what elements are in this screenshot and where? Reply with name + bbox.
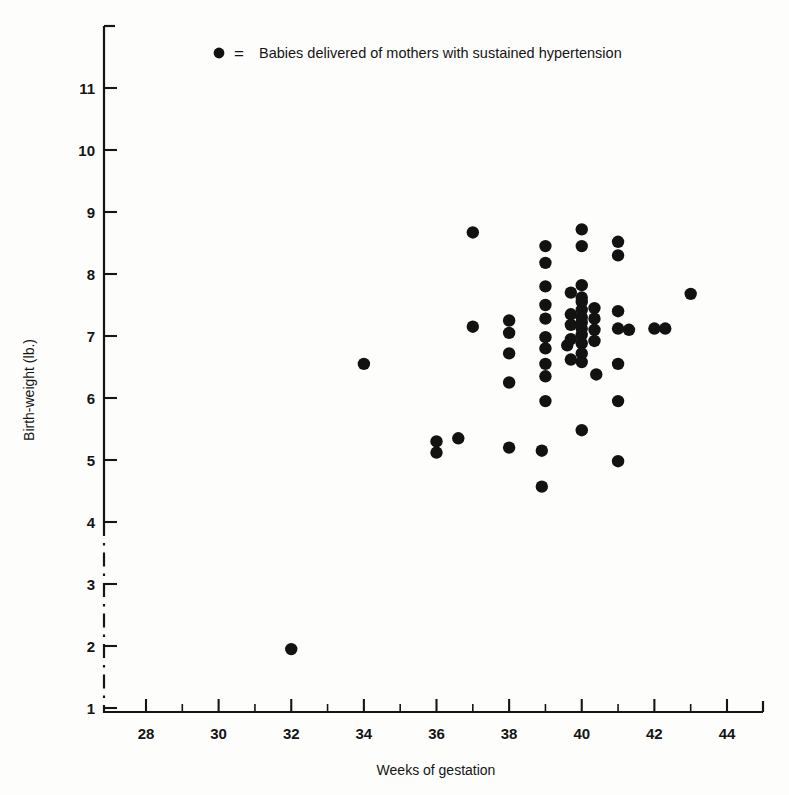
legend-equals-sign: = <box>234 44 244 63</box>
data-point <box>588 324 600 336</box>
x-tick-label-28: 28 <box>138 725 155 742</box>
x-tick-label-40: 40 <box>573 725 590 742</box>
data-point <box>539 240 551 252</box>
x-tick-label-34: 34 <box>356 725 373 742</box>
x-tick-label-44: 44 <box>719 725 736 742</box>
data-point <box>430 446 442 458</box>
data-point <box>612 305 624 317</box>
data-point <box>539 331 551 343</box>
x-tick-label-30: 30 <box>210 725 227 742</box>
data-point <box>503 347 515 359</box>
data-point <box>590 368 602 380</box>
data-point <box>588 312 600 324</box>
data-point <box>684 288 696 300</box>
x-tick-label-38: 38 <box>501 725 518 742</box>
data-point <box>539 280 551 292</box>
legend-marker-icon <box>214 48 225 59</box>
data-point <box>612 455 624 467</box>
data-point <box>612 395 624 407</box>
data-point <box>358 358 370 370</box>
legend-label: Babies delivered of mothers with sustain… <box>259 45 622 61</box>
data-point <box>503 441 515 453</box>
data-point <box>623 324 635 336</box>
data-point <box>588 302 600 314</box>
axes-layer: 1234567891011283032343638404244 <box>78 26 763 742</box>
chart-legend: = Babies delivered of mothers with susta… <box>214 44 622 63</box>
chart-figure: Birth-weight (lb.) Weeks of gestation = … <box>0 0 789 795</box>
data-point <box>503 376 515 388</box>
scatter-plot-canvas: Birth-weight (lb.) Weeks of gestation = … <box>0 0 789 795</box>
data-point <box>539 299 551 311</box>
x-tick-label-42: 42 <box>646 725 663 742</box>
y-tick-label-9: 9 <box>87 204 95 221</box>
data-point <box>539 395 551 407</box>
x-axis-title: Weeks of gestation <box>377 762 496 778</box>
data-point <box>612 322 624 334</box>
data-point <box>536 445 548 457</box>
y-tick-label-1: 1 <box>87 700 95 717</box>
y-tick-label-7: 7 <box>87 328 95 345</box>
y-tick-label-5: 5 <box>87 452 95 469</box>
y-tick-label-4: 4 <box>87 514 96 531</box>
data-point <box>576 424 588 436</box>
data-point <box>539 257 551 269</box>
data-point <box>539 370 551 382</box>
y-tick-label-3: 3 <box>87 576 95 593</box>
data-point <box>503 314 515 326</box>
data-point <box>612 249 624 261</box>
data-points-layer <box>285 223 697 655</box>
data-point <box>612 236 624 248</box>
y-axis-title: Birth-weight (lb.) <box>21 339 37 441</box>
y-tick-label-6: 6 <box>87 390 95 407</box>
data-point <box>539 312 551 324</box>
data-point <box>565 319 577 331</box>
data-point <box>452 432 464 444</box>
y-tick-label-2: 2 <box>87 638 95 655</box>
data-point <box>576 356 588 368</box>
y-tick-label-10: 10 <box>78 142 95 159</box>
y-tick-label-11: 11 <box>79 80 95 97</box>
data-point <box>285 643 297 655</box>
data-point <box>539 342 551 354</box>
x-tick-label-32: 32 <box>283 725 300 742</box>
data-point <box>565 308 577 320</box>
data-point <box>565 333 577 345</box>
data-point <box>576 240 588 252</box>
data-point <box>430 435 442 447</box>
data-point <box>565 353 577 365</box>
data-point <box>612 358 624 370</box>
y-tick-label-8: 8 <box>87 266 95 283</box>
data-point <box>565 286 577 298</box>
data-point <box>576 279 588 291</box>
data-point <box>467 321 479 333</box>
data-point <box>503 327 515 339</box>
data-point <box>576 223 588 235</box>
x-axis-line <box>104 708 763 712</box>
data-point <box>648 322 660 334</box>
x-tick-label-36: 36 <box>428 725 445 742</box>
data-point <box>539 358 551 370</box>
data-point <box>588 335 600 347</box>
data-point <box>536 480 548 492</box>
data-point <box>659 322 671 334</box>
data-point <box>467 226 479 238</box>
